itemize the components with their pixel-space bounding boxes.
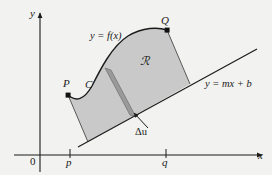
x-tick-label-q: q (162, 157, 168, 168)
region-label-script-r: ℛ (140, 55, 150, 67)
figure-canvas: y x 0 p q P C Q y = f(x) y = mx + b ℛ Δu (0, 0, 272, 175)
x-axis-label: x (258, 150, 263, 161)
delta-u-label: Δu (135, 127, 147, 138)
point-label-Q: Q (161, 15, 169, 26)
curve-equation-label: y = f(x) (90, 31, 122, 42)
point-marker-P (66, 93, 71, 98)
line-equation-label: y = mx + b (205, 79, 252, 90)
origin-label: 0 (30, 156, 36, 167)
point-label-P: P (63, 78, 70, 89)
point-marker-Q (165, 28, 170, 33)
curve-label-C: C (85, 79, 92, 90)
y-axis-label: y (30, 8, 35, 19)
x-tick-label-p: p (66, 157, 72, 168)
